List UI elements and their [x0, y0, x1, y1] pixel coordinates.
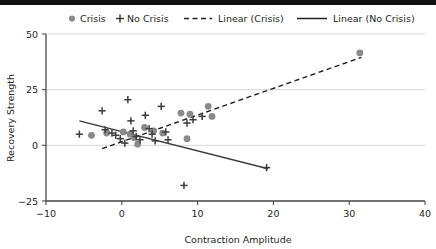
scatter-plot-svg: Crisis No Crisis Linear (Crisis) Linear …	[0, 0, 436, 249]
data-point-crisis	[184, 135, 191, 142]
data-point-no-crisis	[124, 96, 131, 103]
data-point-crisis	[141, 124, 148, 131]
data-point-no-crisis	[263, 164, 270, 171]
data-point-crisis	[120, 129, 127, 136]
y-axis-ticks: −2502550	[18, 29, 46, 207]
x-tick-label: 0	[119, 208, 125, 219]
x-tick-label: 40	[419, 208, 431, 219]
y-tick-label: 25	[26, 84, 38, 95]
legend-label-linear-crisis: Linear (Crisis)	[218, 13, 284, 24]
data-point-crisis	[209, 113, 216, 120]
legend-item-crisis: Crisis	[69, 13, 106, 24]
legend-item-no-crisis: No Crisis	[116, 13, 169, 24]
legend-label-no-crisis: No Crisis	[127, 13, 169, 24]
data-point-crisis	[205, 103, 212, 110]
data-point-no-crisis	[183, 119, 190, 126]
data-point-crisis	[88, 132, 95, 139]
y-tick-label: −25	[18, 196, 38, 207]
x-axis-ticks: −10010203040	[36, 201, 431, 219]
data-point-no-crisis	[117, 135, 124, 142]
data-point-no-crisis	[98, 107, 105, 114]
x-tick-label: 20	[267, 208, 279, 219]
y-tick-label: 0	[32, 140, 38, 151]
trendlines	[79, 57, 361, 168]
axis-lines	[46, 34, 425, 201]
x-tick-label: 30	[343, 208, 355, 219]
data-point-crisis	[356, 50, 363, 57]
series-crisis-points	[88, 50, 363, 148]
data-point-no-crisis	[142, 112, 149, 119]
chart-container: Crisis No Crisis Linear (Crisis) Linear …	[0, 0, 436, 249]
chart-legend: Crisis No Crisis Linear (Crisis) Linear …	[69, 13, 415, 24]
x-axis-label: Contraction Amplitude	[184, 234, 291, 245]
y-tick-label: 50	[26, 29, 38, 40]
legend-label-linear-no-crisis: Linear (No Crisis)	[333, 13, 415, 24]
no-crisis-plus-icon	[116, 15, 124, 23]
trendline-crisis	[102, 57, 361, 148]
data-point-no-crisis	[152, 137, 159, 144]
data-point-no-crisis	[158, 103, 165, 110]
data-point-no-crisis	[76, 131, 83, 138]
legend-item-linear-crisis: Linear (Crisis)	[184, 13, 284, 24]
data-point-crisis	[178, 110, 185, 117]
gridlines	[46, 34, 425, 201]
x-tick-label: −10	[36, 208, 56, 219]
x-tick-label: 10	[192, 208, 204, 219]
data-point-no-crisis	[180, 182, 187, 189]
series-no-crisis-points	[76, 96, 270, 189]
legend-item-linear-no-crisis: Linear (No Crisis)	[297, 13, 415, 24]
crisis-circle-icon	[69, 15, 75, 21]
legend-label-crisis: Crisis	[80, 13, 106, 24]
trendline-no-crisis	[79, 121, 268, 169]
data-point-no-crisis	[127, 117, 134, 124]
y-axis-label: Recovery Strength	[5, 74, 16, 162]
